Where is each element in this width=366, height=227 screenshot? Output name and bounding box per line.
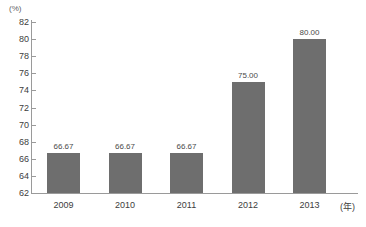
bar — [232, 82, 265, 193]
bar-chart: (%) (年) 8280787674727068666462 66.6766.6… — [0, 0, 366, 227]
bar-value-label: 75.00 — [238, 71, 258, 80]
bar — [170, 153, 203, 193]
bar-value-label: 66.67 — [53, 142, 73, 151]
bar — [293, 39, 326, 193]
bar — [47, 153, 80, 193]
x-axis-tick-label: 2013 — [299, 200, 319, 210]
bars-layer: 66.6766.6766.6775.0080.00 — [0, 0, 366, 227]
bar-value-label: 66.67 — [115, 142, 135, 151]
bar — [109, 153, 142, 193]
x-axis-tick-label: 2009 — [53, 200, 73, 210]
bar-value-label: 80.00 — [299, 28, 319, 37]
bar-value-label: 66.67 — [176, 142, 196, 151]
x-axis-tick-label: 2011 — [177, 200, 196, 210]
x-axis-tick-label: 2012 — [238, 200, 258, 210]
x-axis-tick-label: 2010 — [115, 200, 135, 210]
